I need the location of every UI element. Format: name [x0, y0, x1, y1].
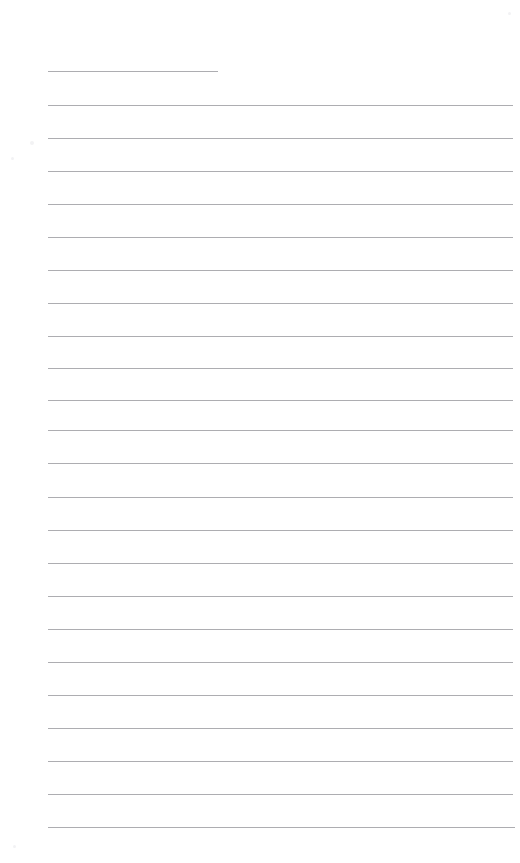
rule-line[interactable]	[48, 629, 513, 630]
rule-line[interactable]	[48, 530, 513, 531]
rule-line[interactable]	[48, 761, 513, 762]
scan-speck	[30, 141, 34, 145]
rule-line[interactable]	[48, 204, 513, 205]
rule-line[interactable]	[48, 430, 513, 431]
rule-line[interactable]	[48, 497, 513, 498]
scan-speck	[13, 845, 16, 848]
rule-line[interactable]	[48, 596, 513, 597]
ruled-writing-area[interactable]	[0, 0, 520, 863]
rule-line[interactable]	[48, 171, 513, 172]
rule-line[interactable]	[48, 728, 513, 729]
lined-paper-page	[0, 0, 520, 863]
rule-line[interactable]	[48, 105, 513, 106]
rule-line-short[interactable]	[48, 71, 218, 72]
rule-line[interactable]	[48, 662, 513, 663]
rule-line[interactable]	[48, 270, 513, 271]
rule-line[interactable]	[48, 794, 513, 795]
rule-line[interactable]	[48, 695, 513, 696]
scan-speck	[508, 12, 511, 15]
rule-line[interactable]	[48, 400, 513, 401]
rule-line[interactable]	[48, 827, 515, 828]
rule-line[interactable]	[48, 237, 513, 238]
rule-line[interactable]	[48, 303, 513, 304]
rule-line[interactable]	[48, 336, 513, 337]
rule-line[interactable]	[48, 138, 513, 139]
scan-speck	[11, 157, 14, 160]
rule-line[interactable]	[48, 563, 513, 564]
rule-line[interactable]	[48, 368, 513, 369]
rule-line[interactable]	[48, 463, 513, 464]
